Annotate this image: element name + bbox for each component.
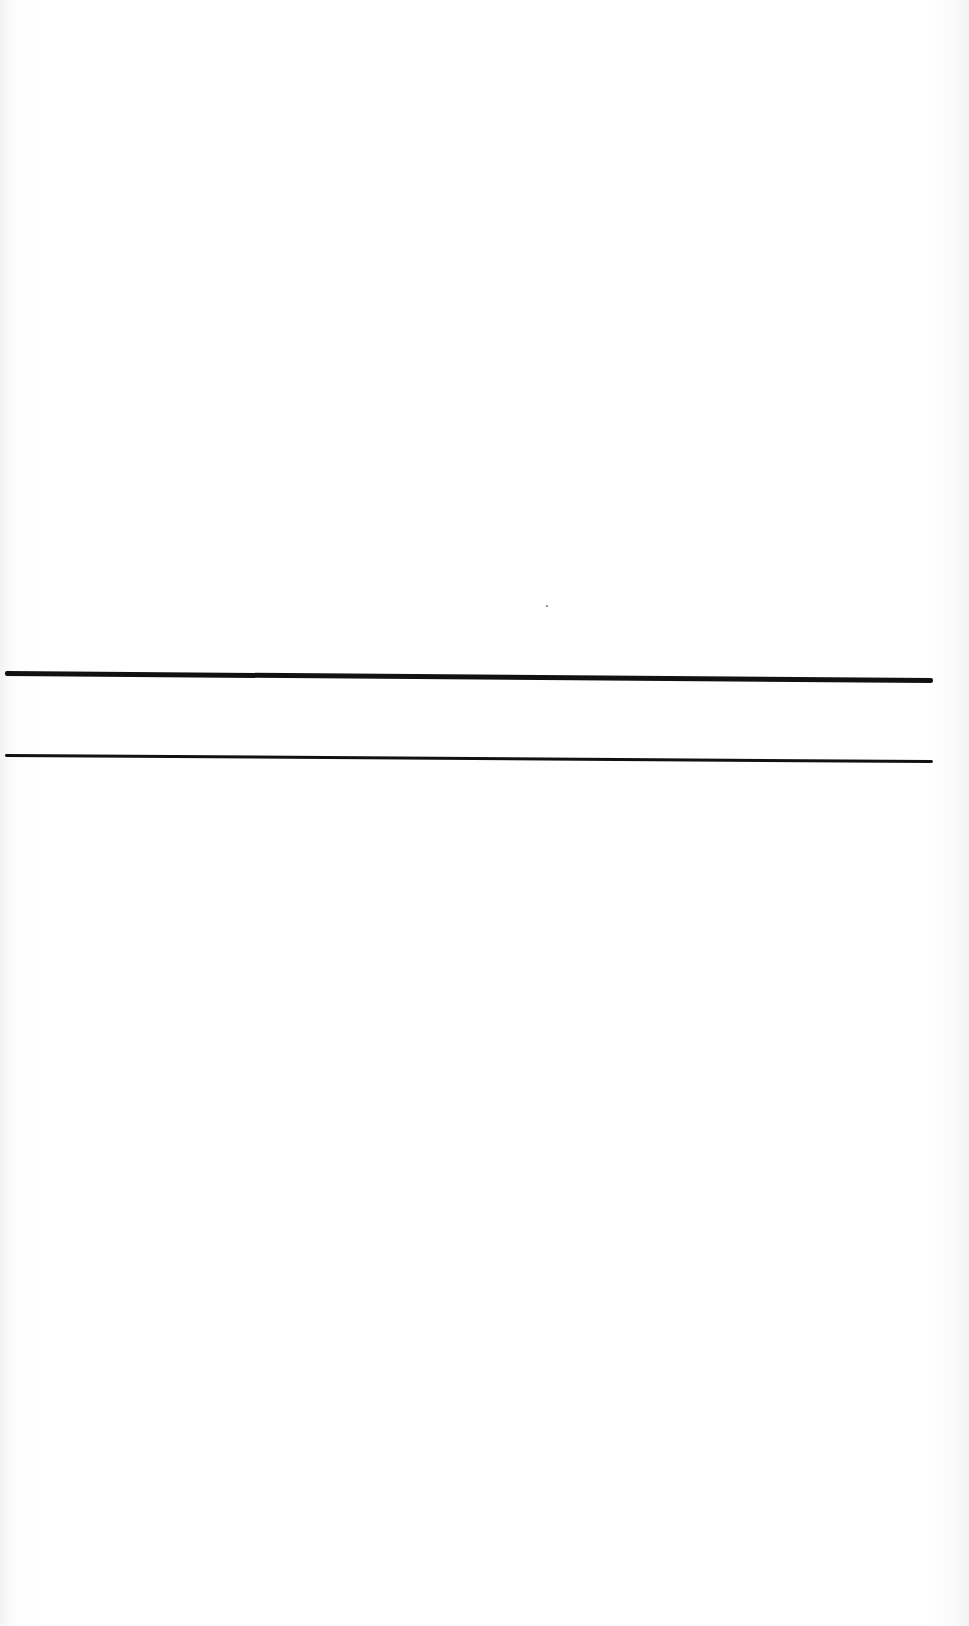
scan-speck xyxy=(546,605,548,607)
document-page xyxy=(0,0,969,1626)
lower-horizontal-rule xyxy=(5,754,933,763)
upper-horizontal-rule xyxy=(5,671,933,683)
